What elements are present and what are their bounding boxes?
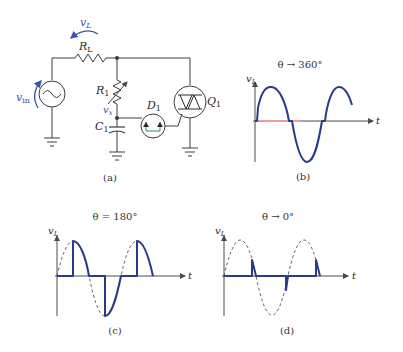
variable-resistor	[113, 80, 121, 118]
label-C1: C1	[95, 120, 109, 134]
label-D1: D1	[146, 99, 161, 113]
gate-wire	[178, 114, 182, 126]
adjust-arrow-icon	[108, 82, 127, 104]
waveform-vL	[255, 87, 352, 162]
panel-d-chart: θ → 0° vL t (d)	[215, 211, 357, 336]
circuit-diagram: vL RL vin R1 vx C1 D1 Q1 (a)	[16, 16, 221, 183]
ground-icon	[44, 138, 60, 146]
y-axis-label: vL	[246, 73, 257, 86]
label-Q1: Q1	[207, 95, 221, 109]
caption-d: (d)	[280, 325, 294, 336]
sine-icon	[43, 91, 61, 98]
panel-b-chart: θ → 360° vL t (b)	[246, 59, 381, 182]
panel-c-chart: θ = 180° vL t (c)	[48, 211, 193, 336]
voltage-arrow-vin-icon	[35, 81, 41, 108]
ground-icon	[109, 152, 125, 160]
caption-a: (a)	[103, 172, 117, 183]
waveform-vL	[224, 260, 320, 290]
panel-c-title: θ = 180°	[93, 211, 138, 222]
x-axis-label: t	[376, 115, 381, 126]
label-R1: R1	[95, 84, 109, 98]
y-axis-label: vL	[48, 225, 59, 238]
ground-icon	[182, 148, 198, 156]
source-waveform-dashed	[224, 240, 320, 315]
label-vin: vin	[16, 91, 30, 105]
triac	[174, 86, 206, 118]
load-resistor	[75, 54, 106, 62]
figure-canvas: vL RL vin R1 vx C1 D1 Q1 (a) θ → 360° vL…	[0, 0, 403, 352]
waveform-vL	[57, 241, 153, 316]
panel-b-title: θ → 360°	[278, 59, 323, 70]
y-axis-label: vL	[215, 225, 226, 238]
panel-d-title: θ → 0°	[262, 211, 294, 222]
label-vL: vL	[80, 16, 92, 30]
caption-b: (b)	[296, 171, 310, 182]
voltage-arrow-vL-icon	[71, 31, 98, 38]
diac-symbol-icon	[143, 122, 163, 131]
label-RL: RL	[78, 40, 93, 54]
triac-symbol-icon	[178, 95, 202, 109]
label-vx: vx	[103, 104, 113, 117]
x-axis-label: t	[352, 270, 357, 281]
x-axis-label: t	[188, 270, 193, 281]
caption-c: (c)	[108, 325, 122, 336]
